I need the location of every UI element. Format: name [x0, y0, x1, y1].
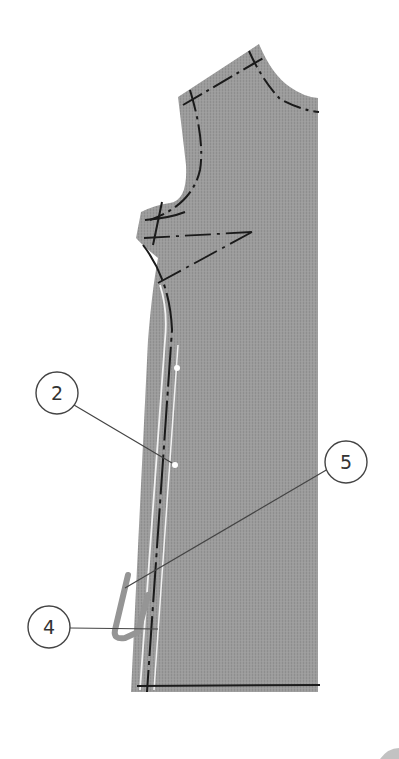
hem-stitch-line [137, 685, 320, 686]
pattern-diagram: 2 5 4 [0, 0, 399, 759]
marker-dot-upper [174, 365, 180, 371]
callout-2-label: 2 [51, 382, 63, 404]
marker-dot-lower [172, 462, 178, 468]
callout-5-label: 5 [340, 451, 352, 473]
page-corner-mark [380, 748, 399, 759]
bodice-piece [131, 44, 318, 692]
callout-4-label: 4 [43, 616, 55, 638]
